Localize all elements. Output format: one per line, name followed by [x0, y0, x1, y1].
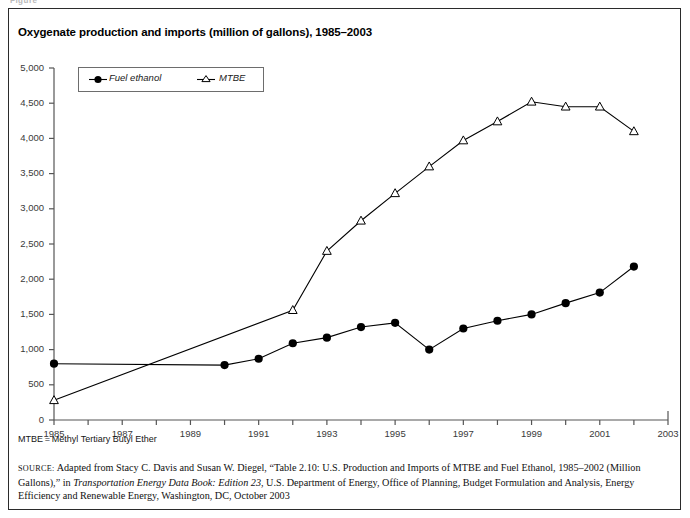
source-italic-title: Transportation Energy Data Book: Edition…	[73, 477, 261, 488]
y-tick-label: 0	[0, 414, 44, 425]
chart-footnote: MTBE = Methyl Tertiary Butyl Ether	[18, 434, 157, 444]
x-tick-label: 1997	[443, 428, 483, 439]
y-tick-label: 1,000	[0, 343, 44, 354]
x-tick-label: 1993	[307, 428, 347, 439]
legend-item-fuel-ethanol: Fuel ethanol	[109, 72, 161, 83]
x-tick-label: 1991	[239, 428, 279, 439]
legend-open-triangle-icon	[202, 76, 210, 82]
x-tick-label: 1999	[512, 428, 552, 439]
y-tick-label: 4,000	[0, 132, 44, 143]
x-tick-label: 2003	[648, 428, 688, 439]
x-tick-label: 1995	[375, 428, 415, 439]
chart-legend: Fuel ethanol MTBE	[78, 67, 264, 92]
series-fuel-ethanol	[50, 262, 638, 369]
y-tick-label: 1,500	[0, 308, 44, 319]
legend-item-mtbe: MTBE	[219, 72, 245, 83]
chart-axes	[54, 68, 668, 420]
chart-ticks	[49, 68, 668, 425]
y-tick-label: 2,500	[0, 238, 44, 249]
y-tick-label: 2,000	[0, 273, 44, 284]
source-label: SOURCE:	[18, 464, 55, 473]
y-tick-label: 5,000	[0, 62, 44, 73]
y-tick-label: 4,500	[0, 97, 44, 108]
series-mtbe	[50, 97, 639, 403]
y-tick-label: 500	[0, 378, 44, 389]
y-tick-label: 3,000	[0, 202, 44, 213]
x-tick-label: 1989	[170, 428, 210, 439]
x-tick-label: 2001	[580, 428, 620, 439]
source-note: SOURCE: Adapted from Stacy C. Davis and …	[18, 461, 670, 503]
legend-filled-circle-icon	[94, 76, 101, 83]
y-tick-label: 3,500	[0, 167, 44, 178]
